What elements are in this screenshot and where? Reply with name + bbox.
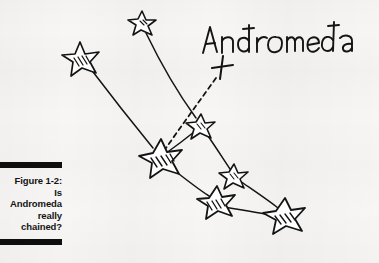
star-bottom-right	[263, 198, 305, 234]
figure-caption-block: Figure 1-2: Is Andromeda really chained?	[0, 162, 64, 245]
figure-page: Figure 1-2: Is Andromeda really chained?	[0, 0, 379, 263]
cross-marker-icon	[212, 56, 233, 79]
constellation-label	[203, 22, 352, 53]
link-hub-to-smallmid	[206, 133, 230, 169]
figure-caption-text: Figure 1-2: Is Andromeda really chained?	[0, 168, 64, 239]
link-upperleft-to-leftmid	[90, 68, 153, 148]
star-small-mid	[219, 164, 248, 189]
figure-number-label: Figure 1-2:	[0, 175, 62, 187]
star-left-mid	[139, 139, 182, 178]
link-smallmid-to-bottomright	[240, 181, 278, 208]
caption-line-4: chained?	[0, 221, 62, 233]
caption-line-3: really	[0, 210, 62, 222]
caption-rule-bottom	[0, 239, 62, 245]
constellation-links	[90, 33, 278, 216]
caption-line-2: Andromeda	[0, 198, 62, 210]
star-top	[128, 11, 156, 35]
caption-line-1: Is	[0, 187, 62, 199]
star-upper-left	[62, 42, 99, 76]
link-hub-to-leftmid	[169, 132, 194, 151]
link-top-to-hub	[146, 33, 196, 118]
